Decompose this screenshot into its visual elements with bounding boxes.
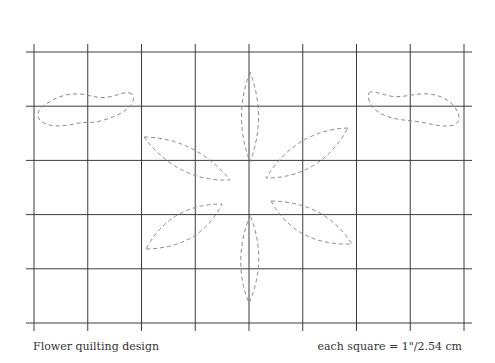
petal-top (242, 72, 259, 162)
leaf-left (38, 93, 134, 126)
petal-upper-left (144, 137, 230, 180)
quilting-diagram (0, 0, 495, 363)
petal-lower-left (146, 204, 222, 249)
leaf-motifs (38, 92, 459, 126)
petal-lower-right (271, 201, 352, 244)
petal-bottom (241, 215, 259, 303)
leaf-right (368, 92, 459, 126)
scale-note: each square = 1"/2.54 cm (318, 340, 462, 353)
design-title: Flower quilting design (33, 340, 159, 353)
grid (26, 44, 472, 331)
petal-upper-right (266, 128, 348, 178)
